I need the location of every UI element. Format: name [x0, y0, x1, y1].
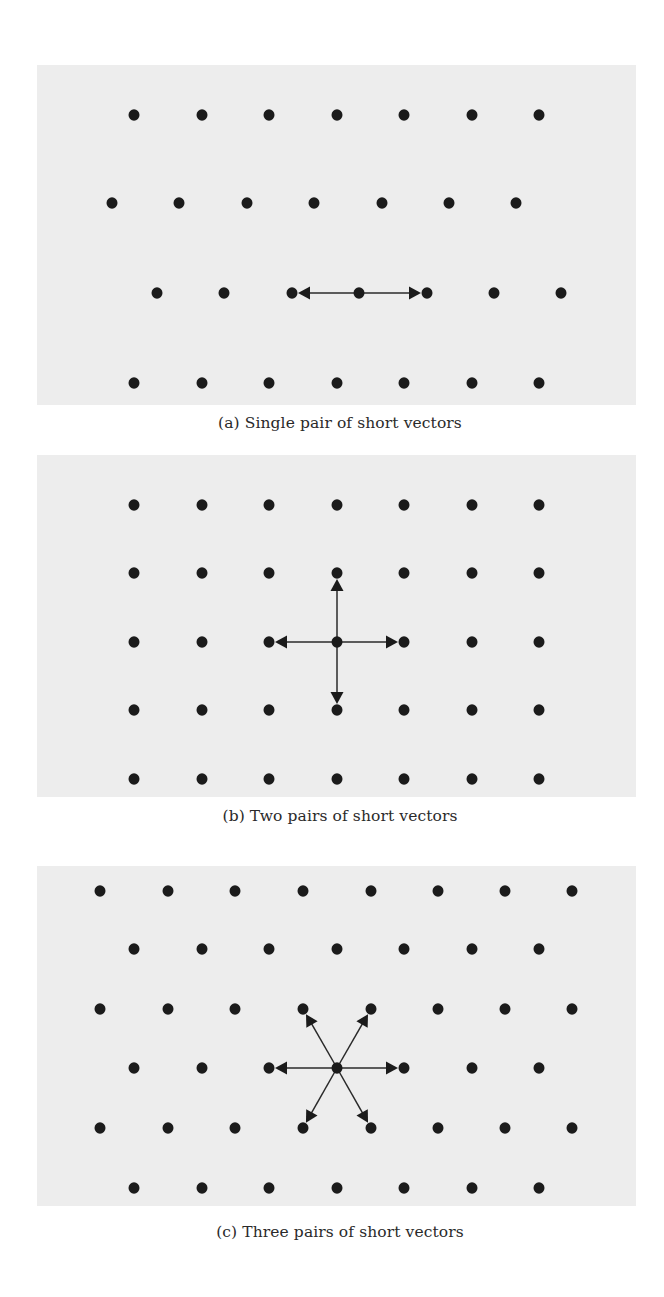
lattice-point [567, 885, 578, 897]
lattice-point [332, 1182, 343, 1194]
lattice-point [399, 1062, 410, 1074]
lattice-point [298, 1003, 309, 1015]
lattice-point [500, 1003, 511, 1015]
lattice-point [567, 1003, 578, 1015]
lattice-point [298, 1122, 309, 1134]
lattice-point [433, 1122, 444, 1134]
lattice-point [332, 1062, 343, 1074]
lattice-point [366, 1122, 377, 1134]
lattice-point [230, 1122, 241, 1134]
lattice-point [95, 1003, 106, 1015]
lattice-point [129, 1182, 140, 1194]
lattice-point [534, 1062, 545, 1074]
lattice-point [399, 1182, 410, 1194]
lattice-point [264, 1182, 275, 1194]
lattice-point [567, 1122, 578, 1134]
caption-c: (c) Three pairs of short vectors [0, 1223, 664, 1241]
lattice-point [264, 1062, 275, 1074]
lattice-point [95, 885, 106, 897]
lattice-point [500, 885, 511, 897]
lattice-point [534, 1182, 545, 1194]
lattice-point [298, 885, 309, 897]
lattice-point [500, 1122, 511, 1134]
lattice-point [230, 885, 241, 897]
lattice-point [197, 1062, 208, 1074]
lattice-point [264, 943, 275, 955]
lattice-point [197, 1182, 208, 1194]
lattice-point [534, 943, 545, 955]
panel-background [37, 866, 636, 1206]
lattice-point [467, 943, 478, 955]
lattice-point [95, 1122, 106, 1134]
lattice-point [163, 1122, 174, 1134]
lattice-point [433, 885, 444, 897]
lattice-diagram-c [0, 0, 664, 1297]
lattice-point [467, 1062, 478, 1074]
lattice-point [163, 1003, 174, 1015]
lattice-point [399, 943, 410, 955]
lattice-point [163, 885, 174, 897]
lattice-point [467, 1182, 478, 1194]
lattice-point [366, 1003, 377, 1015]
lattice-point [197, 943, 208, 955]
lattice-point [433, 1003, 444, 1015]
lattice-point [129, 1062, 140, 1074]
lattice-point [230, 1003, 241, 1015]
lattice-point [332, 943, 343, 955]
lattice-point [366, 885, 377, 897]
lattice-point [129, 943, 140, 955]
